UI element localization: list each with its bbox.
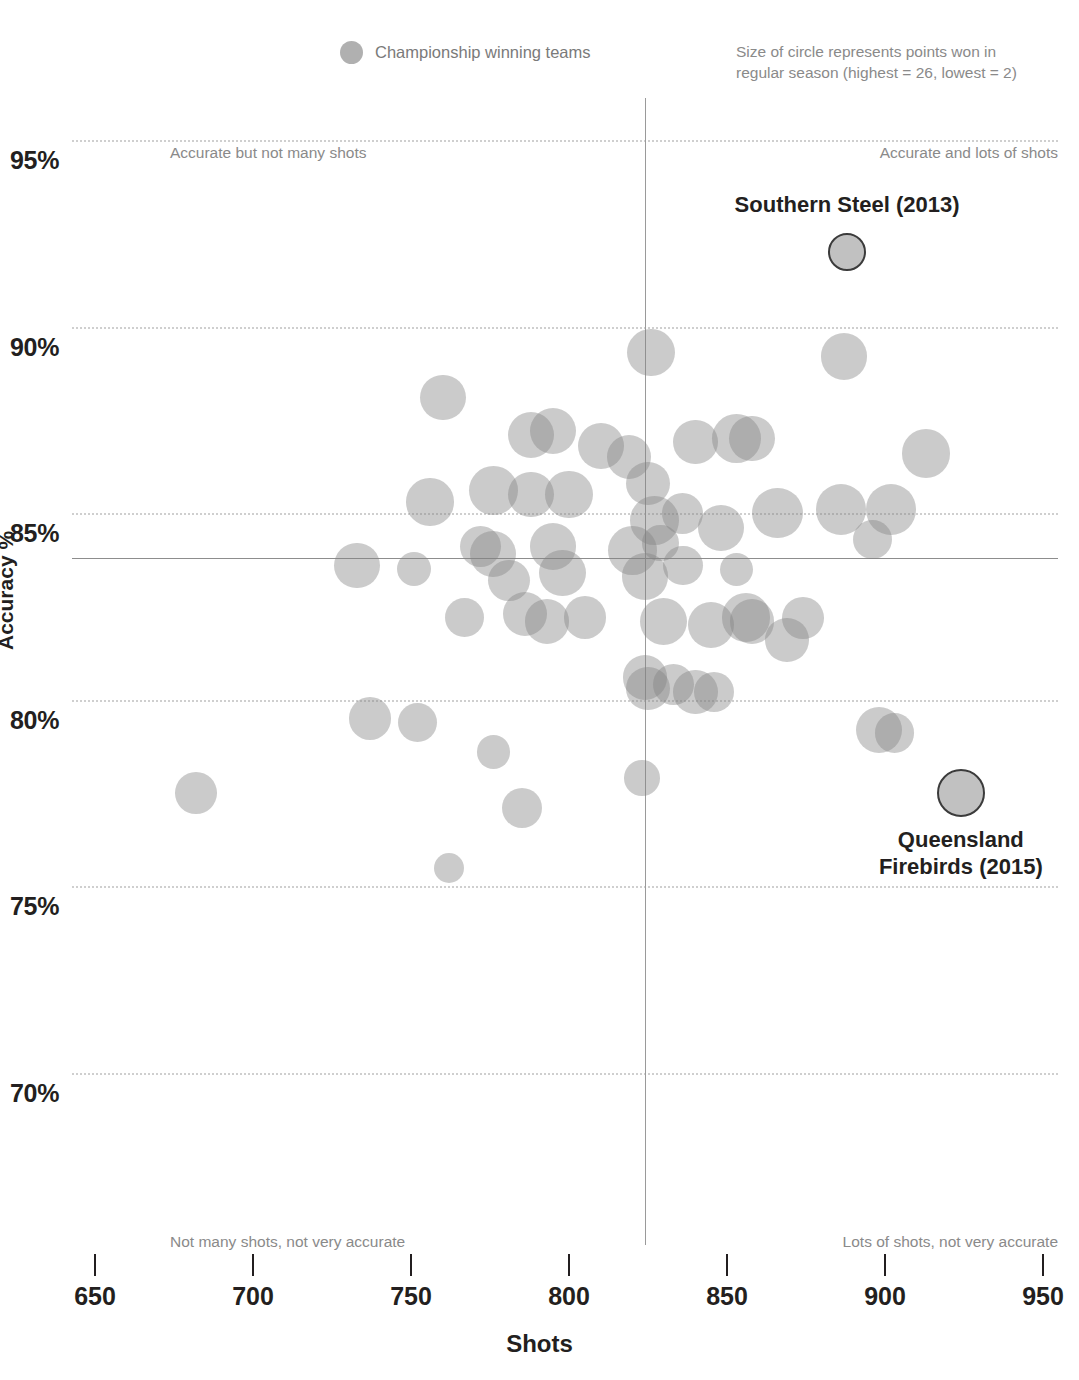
annotation-label: Southern Steel (2013) (687, 192, 1007, 219)
x-tick-label-650: 650 (74, 1282, 116, 1311)
data-bubble[interactable] (545, 471, 592, 518)
x-tick-mark-700 (252, 1254, 254, 1276)
data-bubble[interactable] (175, 772, 217, 814)
data-bubble[interactable] (673, 420, 717, 464)
plot-area: 95%90%85%80%75%70%Accurate but not many … (72, 140, 1058, 1250)
data-bubble[interactable] (397, 552, 432, 587)
data-bubble[interactable] (445, 598, 484, 637)
data-bubble[interactable] (663, 546, 703, 586)
quad-note-top-left: Accurate but not many shots (170, 144, 366, 162)
data-bubble[interactable] (525, 599, 569, 643)
data-bubble[interactable] (334, 543, 380, 589)
data-bubble[interactable] (821, 333, 868, 380)
data-bubble[interactable] (502, 788, 542, 828)
data-bubble[interactable] (902, 429, 951, 478)
data-bubble[interactable] (853, 520, 892, 559)
x-tick-mark-650 (94, 1254, 96, 1276)
data-bubble[interactable] (349, 697, 392, 740)
data-bubble[interactable] (398, 703, 437, 742)
gridline-95 (72, 140, 1058, 142)
data-bubble[interactable] (698, 505, 744, 551)
data-bubble[interactable] (530, 408, 577, 455)
x-axis-title: Shots (0, 1330, 1079, 1358)
data-bubble[interactable] (539, 550, 586, 597)
gridline-80 (72, 700, 1058, 702)
legend: Championship winning teams (340, 41, 591, 64)
size-encoding-note: Size of circle represents points won in … (736, 42, 1046, 84)
data-bubble[interactable] (729, 416, 775, 462)
legend-label: Championship winning teams (375, 43, 591, 62)
data-bubble[interactable] (564, 596, 607, 639)
gridline-70 (72, 1073, 1058, 1075)
quad-note-top-right: Accurate and lots of shots (880, 144, 1058, 162)
data-bubble[interactable] (627, 329, 674, 376)
data-bubble[interactable] (640, 598, 687, 645)
x-tick-mark-900 (884, 1254, 886, 1276)
data-bubble[interactable] (434, 853, 464, 883)
data-bubble[interactable] (875, 713, 915, 753)
x-tick-label-800: 800 (548, 1282, 590, 1311)
highlighted-bubble[interactable] (828, 233, 866, 271)
x-tick-mark-800 (568, 1254, 570, 1276)
data-bubble[interactable] (765, 618, 808, 661)
data-bubble[interactable] (622, 553, 669, 600)
x-axis: 650700750800850900950 (0, 1254, 1079, 1324)
quad-note-bottom-right: Lots of shots, not very accurate (843, 1233, 1058, 1251)
x-tick-mark-850 (726, 1254, 728, 1276)
data-bubble[interactable] (477, 735, 510, 768)
data-bubble[interactable] (406, 478, 453, 525)
gridline-75 (72, 886, 1058, 888)
y-tick-label-95: 95% (10, 146, 59, 175)
annotation-label-line: Firebirds (2015) (801, 854, 1079, 881)
y-tick-label-80: 80% (10, 706, 59, 735)
y-axis-title: Accuracy % (0, 531, 18, 650)
annotation-label: QueenslandFirebirds (2015) (801, 827, 1079, 881)
data-bubble[interactable] (420, 375, 466, 421)
x-tick-label-850: 850 (706, 1282, 748, 1311)
gridline-90 (72, 327, 1058, 329)
x-tick-label-950: 950 (1022, 1282, 1064, 1311)
y-tick-label-90: 90% (10, 333, 59, 362)
x-tick-label-750: 750 (390, 1282, 432, 1311)
annotation-label-line: Queensland (801, 827, 1079, 854)
x-tick-label-700: 700 (232, 1282, 274, 1311)
y-tick-label-75: 75% (10, 892, 59, 921)
x-tick-mark-750 (410, 1254, 412, 1276)
bubble-swatch-icon (340, 41, 363, 64)
quad-note-bottom-left: Not many shots, not very accurate (170, 1233, 405, 1251)
data-bubble[interactable] (624, 760, 660, 796)
bubble-chart: Championship winning teams Size of circl… (0, 0, 1079, 1380)
x-tick-label-900: 900 (864, 1282, 906, 1311)
data-bubble[interactable] (694, 672, 734, 712)
x-tick-mark-950 (1042, 1254, 1044, 1276)
highlighted-bubble[interactable] (937, 769, 985, 817)
data-bubble[interactable] (720, 553, 753, 586)
data-bubble[interactable] (752, 488, 802, 538)
y-tick-label-70: 70% (10, 1079, 59, 1108)
